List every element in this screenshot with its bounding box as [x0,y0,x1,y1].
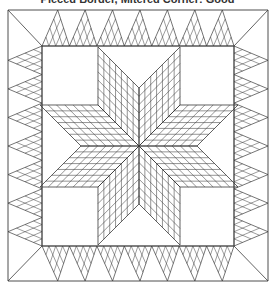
lone-star-quilt-diagram [0,0,275,288]
lone-star [40,47,238,245]
